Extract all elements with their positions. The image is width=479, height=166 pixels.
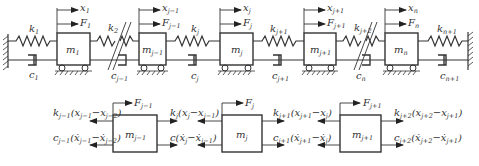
label-k1: k1 — [29, 24, 39, 36]
label-cjm1: cj−1 — [111, 71, 128, 83]
label-fb2-left-damper: c(ẋj−ẋj−1) — [170, 133, 217, 145]
label-kj: kj — [191, 24, 199, 36]
label-fb2-right-spring: kj+1(xj+1−xj) — [273, 108, 332, 120]
label-fb-Fjm1: Fj−1 — [134, 98, 153, 110]
label-fb-mjp1: mj+1 — [352, 130, 373, 142]
spring-k1 — [8, 36, 57, 46]
label-knp1: kn+1 — [437, 24, 457, 36]
label-fb-mj: mj — [236, 130, 248, 142]
label-cjp1: cj+1 — [272, 71, 289, 83]
label-c1: c1 — [29, 70, 39, 82]
label-kjp1: kj+1 — [270, 24, 288, 36]
right-wall — [468, 32, 473, 70]
label-fb3-right-spring: kj+2(xj+2−xj+1) — [394, 108, 462, 120]
label-fb-Fj: Fj — [245, 98, 254, 110]
label-kjp2: kj+2 — [354, 23, 372, 35]
label-k2: k2 — [108, 23, 118, 35]
label-mjm1: mj−1 — [142, 45, 163, 57]
label-fb3-right-damper: cj+2(ẋj+2−ẋj+1) — [394, 133, 462, 145]
label-cj: cj — [191, 71, 199, 83]
label-mj: mj — [231, 45, 243, 57]
label-fb-mjm1: mj−1 — [125, 130, 146, 142]
label-mjp1: mj+1 — [310, 45, 331, 57]
label-F1: F1 — [80, 18, 91, 30]
label-fb1-damper: cj−1(ẋj−1−ẋj−2) — [53, 133, 121, 145]
label-x1: x1 — [80, 3, 90, 15]
label-xj: xj — [243, 3, 251, 15]
label-xjm1: xj−1 — [162, 3, 179, 15]
label-Fn: Fn — [408, 18, 419, 30]
label-Fjp1: Fj+1 — [327, 18, 346, 30]
spring-kj1 — [253, 36, 304, 46]
label-fb2-left-spring: kj(xj−xj−1) — [170, 108, 219, 120]
label-fb1-spring: kj−1(xj−1−xj−2) — [53, 108, 121, 120]
label-fb2-right-damper: cj+1(ẋj+1−ẋj) — [273, 133, 331, 145]
label-xn: xn — [408, 3, 418, 15]
label-Fj: Fj — [243, 18, 252, 30]
spring-kj — [166, 36, 220, 46]
label-mn: mn — [394, 45, 408, 57]
spring-kn1 — [418, 36, 468, 46]
label-fb-Fjp1: Fj+1 — [363, 98, 382, 110]
label-m1: m1 — [66, 45, 80, 57]
spring-kj2 — [336, 36, 385, 46]
spring-k2 — [90, 36, 139, 46]
label-cn: cn — [356, 71, 366, 83]
left-wall — [3, 34, 8, 70]
label-cnp1: cn+1 — [440, 71, 459, 83]
label-Fjm1: Fj−1 — [162, 18, 181, 30]
label-xjp1: xj+1 — [327, 3, 344, 15]
